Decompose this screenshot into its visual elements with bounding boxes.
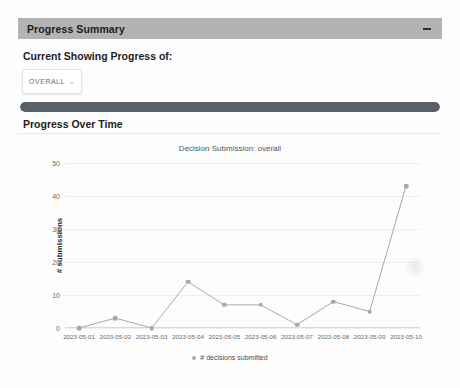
panel-header[interactable]: Progress Summary xyxy=(18,18,442,39)
chart-data-point[interactable] xyxy=(113,316,118,321)
chart-legend: # decisions submitted xyxy=(18,354,442,361)
chart-data-point[interactable] xyxy=(258,303,263,308)
chart-y-tick: 0 xyxy=(56,325,60,332)
chart-x-tick: 2023-05-06 xyxy=(245,333,277,340)
legend-label: # decisions submitted xyxy=(200,354,267,361)
chart-y-tick: 20 xyxy=(52,259,60,266)
chart-data-point[interactable] xyxy=(331,299,336,304)
chart-x-tick: 2023-05-09 xyxy=(354,333,386,340)
progress-bar xyxy=(20,102,440,112)
chart-data-point[interactable] xyxy=(404,184,409,189)
progress-scope-dropdown[interactable]: OVERALL ⌄ xyxy=(22,69,82,94)
chevron-down-icon: ⌄ xyxy=(69,78,75,85)
chart-data-point[interactable] xyxy=(222,303,227,308)
dropdown-selected-value: OVERALL xyxy=(29,78,65,85)
chart-gridline xyxy=(65,328,420,329)
progress-bar-fill xyxy=(20,102,440,112)
chart-data-point[interactable] xyxy=(77,326,82,331)
progress-summary-page: Progress Summary Current Showing Progres… xyxy=(0,0,460,388)
chart-y-tick: 10 xyxy=(52,292,60,299)
chart-x-tick: 2023-05-05 xyxy=(209,333,241,340)
chart-y-tick: 40 xyxy=(52,193,60,200)
section-heading: Progress Over Time xyxy=(23,118,123,130)
chart-x-tick: 2023-05-04 xyxy=(172,333,204,340)
section-divider xyxy=(18,133,442,134)
chart-data-point[interactable] xyxy=(367,309,372,314)
chart-x-tick: 2023-05-03 xyxy=(136,333,168,340)
chart-data-point[interactable] xyxy=(149,326,154,331)
page-title: Progress Summary xyxy=(27,23,125,35)
progress-over-time-chart: Decision Submission: overall # submissio… xyxy=(18,136,442,376)
chart-y-tick: 30 xyxy=(52,226,60,233)
chart-x-tick: 2023-05-08 xyxy=(318,333,350,340)
minus-icon[interactable] xyxy=(423,28,431,30)
chart-data-point[interactable] xyxy=(186,280,191,285)
chart-x-tick: 2023-05-01 xyxy=(63,333,95,340)
chart-x-tick: 2023-05-07 xyxy=(281,333,313,340)
chart-y-tick: 50 xyxy=(52,160,60,167)
chart-x-tick: 2023-05-02 xyxy=(100,333,132,340)
chart-title: Decision Submission: overall xyxy=(18,144,442,153)
chart-plot-area: 010203040502023-05-012023-05-022023-05-0… xyxy=(65,163,420,328)
chart-line-series xyxy=(65,163,420,328)
legend-marker-icon xyxy=(192,356,196,360)
chart-x-tick: 2023-05-10 xyxy=(390,333,422,340)
filter-label: Current Showing Progress of: xyxy=(23,50,172,62)
chart-data-point[interactable] xyxy=(295,322,300,327)
